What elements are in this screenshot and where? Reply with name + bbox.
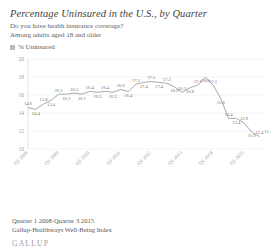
legend-label: % Uninsured xyxy=(18,43,55,51)
y-axis-tick-label: 12 xyxy=(19,128,25,134)
x-axis-labels-group: Q1 2008Q1 2009Q1 2010Q1 2011Q1 2012Q1 20… xyxy=(13,150,245,166)
line-chart-svg: 101214161820 Q1 2008Q1 2009Q1 2010Q1 201… xyxy=(8,53,269,179)
legend-swatch-icon xyxy=(10,45,15,50)
x-axis-tick-label: Q1 2011 xyxy=(106,150,122,166)
chart-footer: Quarter 1 2008-Quarter 3 2015 Gallup-Hea… xyxy=(12,217,265,248)
y-axis-tick-label: 20 xyxy=(19,56,25,62)
footer-range: Quarter 1 2008-Quarter 3 2015 xyxy=(12,217,265,225)
data-point-label: 17.5 xyxy=(147,75,156,80)
data-point-label: 14.6 xyxy=(24,101,33,106)
data-point-label: 16.1 xyxy=(55,88,64,93)
x-axis-tick-label: Q1 2014 xyxy=(198,150,214,166)
y-axis-tick-label: 16 xyxy=(19,92,25,98)
y-axis-tick-label: 18 xyxy=(19,74,25,80)
footer-source: Gallup-Healthways Well-Being Index xyxy=(12,226,265,234)
data-point-label: 16.3 xyxy=(93,94,102,99)
data-point-label: 16.8 xyxy=(186,89,195,94)
x-axis-tick-label: Q1 2012 xyxy=(136,150,152,166)
data-point-label: 16.2 xyxy=(70,87,79,92)
data-point-label: 16.4 xyxy=(101,85,110,90)
y-axis-tick-label: 14 xyxy=(19,110,25,116)
data-point-label: 16.4 xyxy=(86,85,95,90)
x-axis-tick-label: Q1 2009 xyxy=(44,150,60,166)
chart-question: Do you have health insurance coverage? xyxy=(10,22,263,31)
chart-legend: % Uninsured xyxy=(10,43,263,51)
data-point-label: 12.9 xyxy=(240,116,249,121)
chart-population: Among adults aged 18 and older xyxy=(10,31,263,40)
data-point-label: 16.3 xyxy=(109,94,118,99)
x-axis-tick-label: Q1 2010 xyxy=(75,150,91,166)
final-data-point-label: 11.6 xyxy=(264,130,269,135)
plot-area: 101214161820 Q1 2008Q1 2009Q1 2010Q1 201… xyxy=(8,53,269,179)
data-point-label: 17.4 xyxy=(155,84,164,89)
data-point-label: 16.1 xyxy=(78,96,87,101)
data-point-label: 16.1 xyxy=(63,96,72,101)
x-axis-tick-label: Q1 2015 xyxy=(229,150,245,166)
data-point-label: 17.1 xyxy=(209,79,218,84)
data-point-label: 16.6 xyxy=(117,83,126,88)
data-point-labels-group: 14.614.415.015.416.116.116.216.116.416.3… xyxy=(24,75,269,138)
data-point-label: 11.4 xyxy=(255,130,264,135)
data-point-label: 14.4 xyxy=(32,111,41,116)
data-point-label: 17.2 xyxy=(132,78,141,83)
data-point-label: 13.4 xyxy=(224,112,233,117)
gridlines-group xyxy=(28,59,264,149)
x-axis-tick-label: Q1 2013 xyxy=(167,150,183,166)
x-axis-tick-label: Q1 2008 xyxy=(13,150,29,166)
chart-card: Percentage Uninsured in the U.S., by Qua… xyxy=(0,0,269,252)
data-point-label: 15.6 xyxy=(217,100,226,105)
gallup-logo: GALLUP xyxy=(12,239,265,248)
data-point-label: 16.4 xyxy=(124,93,133,98)
data-point-label: 15.4 xyxy=(47,102,56,107)
data-point-label: 17.4 xyxy=(140,84,149,89)
data-point-label: 17.3 xyxy=(163,77,172,82)
page-title: Percentage Uninsured in the U.S., by Qua… xyxy=(10,8,263,19)
